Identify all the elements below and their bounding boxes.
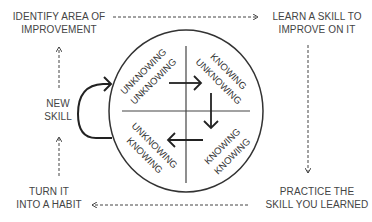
diagram-canvas: UNKNOWING UNKNOWING KNOWING UNKNOWING KN… <box>0 0 372 222</box>
loop-arrow-icon <box>78 77 112 138</box>
